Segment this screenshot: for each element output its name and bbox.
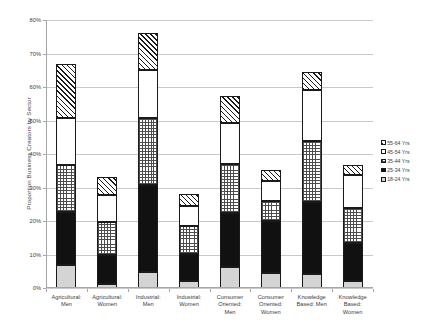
bar-segment-18-24-yrs[interactable] (261, 273, 281, 288)
bar-segment-25-34-yrs[interactable] (56, 212, 76, 265)
bar-segment-35-44-yrs[interactable] (138, 118, 158, 185)
legend-item[interactable]: 35-44 Yrs (381, 156, 427, 165)
chart-legend: 55-64 Yrs45-54 Yrs35-44 Yrs25-34 Yrs18-2… (381, 138, 427, 184)
bar-segment-55-64-yrs[interactable] (302, 72, 322, 90)
x-axis-labels: Agricultural:MenAgricultural:WomenIndust… (46, 289, 373, 329)
bar-segment-45-54-yrs[interactable] (138, 70, 158, 118)
x-tick-mark (169, 289, 170, 292)
x-tick-mark (332, 289, 333, 292)
y-tick-label: 0% (0, 285, 41, 291)
bar-segment-25-34-yrs[interactable] (97, 255, 117, 284)
bar-segment-55-64-yrs[interactable] (138, 33, 158, 70)
gridline (46, 20, 373, 21)
stacked-bar-chart: Proportion Business Creators by Sector 0… (0, 0, 428, 330)
bar-segment-55-64-yrs[interactable] (261, 170, 281, 181)
bar-segment-45-54-yrs[interactable] (261, 181, 281, 201)
bar-segment-55-64-yrs[interactable] (343, 165, 363, 175)
bar-segment-35-44-yrs[interactable] (179, 226, 199, 254)
x-tick-mark (128, 289, 129, 292)
y-tick-label: 70% (0, 50, 41, 56)
bar-segment-25-34-yrs[interactable] (261, 221, 281, 273)
bar-segment-25-34-yrs[interactable] (343, 243, 363, 281)
bar-segment-55-64-yrs[interactable] (179, 194, 199, 206)
bar-segment-45-54-yrs[interactable] (302, 90, 322, 141)
bar-segment-25-34-yrs[interactable] (179, 254, 199, 281)
legend-label: 35-44 Yrs (387, 158, 409, 164)
gridline (46, 154, 373, 155)
gridline (46, 87, 373, 88)
bar-segment-55-64-yrs[interactable] (220, 96, 240, 123)
x-axis-line (46, 287, 373, 288)
legend-item[interactable]: 55-64 Yrs (381, 138, 427, 147)
bar-segment-45-54-yrs[interactable] (97, 195, 117, 222)
bar-segment-35-44-yrs[interactable] (220, 164, 240, 213)
x-tick-mark (87, 289, 88, 292)
bar-segment-18-24-yrs[interactable] (220, 267, 240, 288)
gridline (46, 221, 373, 222)
legend-swatch-icon (381, 140, 386, 145)
bar-segment-45-54-yrs[interactable] (220, 123, 240, 164)
plot-gridlines (46, 20, 373, 288)
gridline (46, 188, 373, 189)
legend-item[interactable]: 18-24 Yrs (381, 175, 427, 184)
legend-swatch-icon (381, 159, 386, 164)
x-axis-tick-label: KnowledgeBased:Women (325, 294, 381, 316)
gridline (46, 54, 373, 55)
y-tick-label: 50% (0, 117, 41, 123)
bar-segment-35-44-yrs[interactable] (302, 141, 322, 202)
bar-segment-25-34-yrs[interactable] (138, 185, 158, 272)
y-tick-label: 30% (0, 184, 41, 190)
bar-segment-18-24-yrs[interactable] (56, 265, 76, 288)
bar-segment-18-24-yrs[interactable] (302, 274, 322, 288)
y-axis-line (46, 20, 47, 288)
x-tick-mark (373, 289, 374, 292)
bar-segment-18-24-yrs[interactable] (138, 272, 158, 288)
gridline (46, 121, 373, 122)
x-tick-mark (291, 289, 292, 292)
bar-segment-55-64-yrs[interactable] (97, 177, 117, 194)
y-tick-label: 10% (0, 251, 41, 257)
bar-segment-25-34-yrs[interactable] (302, 202, 322, 274)
legend-label: 18-24 Yrs (387, 176, 409, 182)
legend-label: 45-54 Yrs (387, 149, 409, 155)
bar-segment-35-44-yrs[interactable] (343, 208, 363, 243)
legend-swatch-icon (381, 149, 386, 154)
x-tick-mark (210, 289, 211, 292)
bar-segment-45-54-yrs[interactable] (56, 118, 76, 166)
bar-segment-45-54-yrs[interactable] (179, 206, 199, 226)
bar-segment-45-54-yrs[interactable] (343, 175, 363, 208)
legend-item[interactable]: 25-34 Yrs (381, 166, 427, 175)
legend-label: 55-64 Yrs (387, 140, 409, 146)
gridline (46, 255, 373, 256)
y-tick-label: 20% (0, 218, 41, 224)
bar-segment-25-34-yrs[interactable] (220, 213, 240, 267)
x-tick-mark (46, 289, 47, 292)
y-tick-label: 40% (0, 151, 41, 157)
legend-swatch-icon (381, 168, 386, 173)
bar-segment-35-44-yrs[interactable] (56, 165, 76, 212)
plot-area (46, 20, 373, 288)
legend-label: 25-34 Yrs (387, 167, 409, 173)
bar-segment-55-64-yrs[interactable] (56, 64, 76, 118)
legend-swatch-icon (381, 177, 386, 182)
y-tick-label: 60% (0, 84, 41, 90)
x-tick-mark (250, 289, 251, 292)
legend-item[interactable]: 45-54 Yrs (381, 147, 427, 156)
bar-segment-35-44-yrs[interactable] (97, 222, 117, 255)
bar-segment-35-44-yrs[interactable] (261, 201, 281, 221)
y-tick-label: 80% (0, 17, 41, 23)
